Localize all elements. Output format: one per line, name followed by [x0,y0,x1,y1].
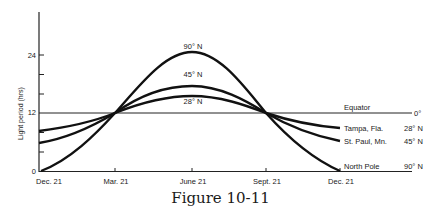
label-north-pole: North Pole [344,162,379,171]
x-tick-dec21-end: Dec. 21 [328,177,354,186]
curve-45n [39,86,340,143]
y-tick-0: 0 [32,167,36,176]
y-axis-label: Light period (hrs) [17,87,25,140]
label-stpaul: St. Paul, Mn. [344,137,387,146]
x-ticks [115,168,340,171]
x-tick-dec21-start: Dec. 21 [36,177,62,186]
light-period-chart: 24 12 0 Light period (hrs) Dec. 21 Mar. … [0,0,441,215]
y-ticks [39,55,44,152]
label-tampa: Tampa, Fla. [344,124,383,133]
y-tick-12: 12 [28,108,36,117]
figure-caption: Figure 10-11 [0,189,441,207]
label-equator-lat: 0° [414,109,421,118]
label-90n: 90° N [184,42,203,51]
label-28n: 28° N [184,97,203,106]
x-tick-sep21: Sept. 21 [253,177,281,186]
y-tick-24: 24 [28,51,36,60]
x-tick-mar21: Mar. 21 [103,177,128,186]
label-tampa-lat: 28° N [404,124,423,133]
label-45n: 45° N [184,70,203,79]
label-stpaul-lat: 45° N [404,137,423,146]
label-north-pole-lat: 90° N [404,162,423,171]
label-equator: Equator [344,103,371,112]
x-tick-jun21: June 21 [180,177,207,186]
